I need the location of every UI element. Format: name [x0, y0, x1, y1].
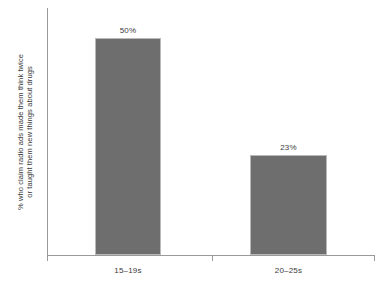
bar-value-15-19s: 50% — [95, 26, 161, 35]
bar-chart: % who claim radio ads made them think tw… — [0, 0, 386, 291]
y-axis-title-line-1: % who claim radio ads made them think tw… — [16, 54, 25, 210]
y-axis-line — [47, 8, 48, 256]
y-axis-title: % who claim radio ads made them think tw… — [10, 8, 40, 256]
category-label-20-25s: 20–25s — [250, 266, 327, 275]
bar-value-20-25s: 23% — [250, 143, 327, 152]
x-axis-tick-left — [47, 256, 48, 261]
category-label-15-19s: 15–19s — [95, 266, 161, 275]
x-axis-line — [47, 255, 375, 256]
bar-15-19s[interactable] — [95, 38, 161, 255]
bar-20-25s[interactable] — [250, 155, 327, 255]
x-axis-tick-right — [374, 256, 375, 261]
y-axis-title-line-2: or taught them new things about drugs — [25, 66, 34, 198]
x-axis-tick-center — [212, 256, 213, 261]
